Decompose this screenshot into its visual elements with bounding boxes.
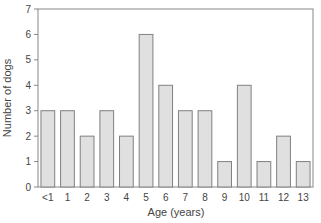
bar [178,111,192,187]
y-tick-label: 3 [25,105,31,116]
y-axis-title: Number of dogs [1,58,13,137]
bar [237,85,251,187]
plot-border [38,9,313,187]
x-tick-label: 9 [222,192,228,203]
x-tick-label: 4 [124,192,130,203]
x-tick-label: 8 [202,192,208,203]
y-tick-label: 1 [25,156,31,167]
bar [80,136,94,187]
y-tick-label: 2 [25,131,31,142]
bar [277,136,291,187]
x-tick-label: <1 [42,192,54,203]
bar [159,85,173,187]
y-tick-label: 0 [25,182,31,193]
bar [139,34,153,187]
x-tick-label: 7 [183,192,189,203]
x-tick-label: 10 [239,192,251,203]
x-tick-label: 2 [84,192,90,203]
bar-chart: 01234567 <112345678910111213 Age (years)… [0,0,321,223]
bar [120,136,134,187]
plot-frame [38,9,313,187]
y-tick-label: 4 [25,80,31,91]
bar [296,162,310,187]
y-tick-label: 7 [25,4,31,15]
y-tick-label: 5 [25,54,31,65]
x-tick-label: 12 [278,192,290,203]
bar [41,111,55,187]
x-tick-label: 11 [259,192,270,203]
y-axis: 01234567 [25,4,38,193]
bar [218,162,232,187]
x-axis: <112345678910111213 [42,192,309,203]
bar [257,162,271,187]
bar [61,111,75,187]
bar [100,111,114,187]
x-tick-label: 6 [163,192,169,203]
x-tick-label: 5 [143,192,149,203]
x-tick-label: 3 [104,192,110,203]
bar [198,111,212,187]
y-tick-label: 6 [25,29,31,40]
x-tick-label: 13 [298,192,310,203]
x-tick-label: 1 [65,192,71,203]
x-axis-title: Age (years) [148,206,205,218]
bars [41,34,310,187]
